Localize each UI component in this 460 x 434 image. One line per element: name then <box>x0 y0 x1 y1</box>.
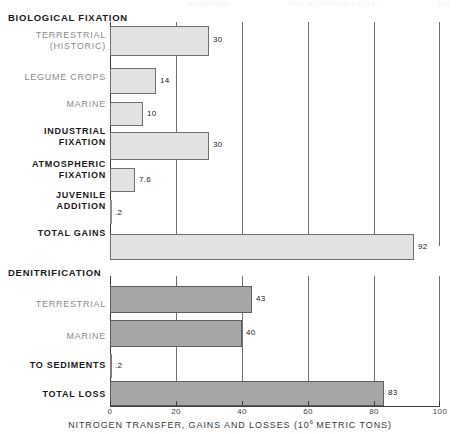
x-tick-label-40: 40 <box>237 407 247 416</box>
bar-value-legume-crops: 14 <box>160 76 170 85</box>
plot-area-biological-fixation: 30 14 10 30 7.6 .2 92 <box>110 22 440 246</box>
x-tick-label-0: 0 <box>108 407 113 416</box>
bar-value-marine-denitrification: 40 <box>246 328 256 337</box>
nitrogen-transfer-bar-chart: NITROGEN THE NITROGEN CYCLE 139 BIOLOGIC… <box>0 0 460 434</box>
x-axis-title-main: NITROGEN TRANSFER, GAINS AND LOSSES (10 <box>68 420 309 430</box>
x-tick-40 <box>242 401 243 406</box>
x-tick-0 <box>110 401 111 406</box>
running-head-left: NITROGEN <box>188 0 230 7</box>
running-head-page-number: 139 <box>437 0 450 7</box>
bar-total-gains <box>110 234 414 260</box>
bar-total-loss <box>110 381 384 406</box>
x-tick-label-100: 100 <box>433 407 448 416</box>
bar-terrestrial-historic <box>110 26 209 56</box>
running-head-center: THE NITROGEN CYCLE <box>289 0 378 7</box>
category-label-total-loss: TOTAL LOSS <box>42 389 106 400</box>
bar-legume-crops <box>110 68 156 94</box>
x-tick-label-60: 60 <box>303 407 313 416</box>
category-label-total-gains: TOTAL GAINS <box>38 228 106 239</box>
bar-to-sediments <box>110 354 112 378</box>
x-axis-title: NITROGEN TRANSFER, GAINS AND LOSSES (106… <box>0 419 460 430</box>
category-label-legume-crops: LEGUME CROPS <box>24 72 106 83</box>
bar-value-terrestrial-historic: 30 <box>213 35 223 44</box>
category-label-terrestrial-historic: TERRESTRIAL (HISTORIC) <box>36 30 106 51</box>
bar-terrestrial-denitrification <box>110 286 252 313</box>
bar-value-marine-fixation: 10 <box>147 109 157 118</box>
bar-industrial-fixation <box>110 132 209 160</box>
category-label-industrial-fixation: INDUSTRIAL FIXATION <box>44 126 106 147</box>
bar-value-juvenile-addition: .2 <box>115 208 122 217</box>
category-label-atmospheric-fixation: ATMOSPHERIC FIXATION <box>32 159 106 180</box>
bar-value-terrestrial-denitrification: 43 <box>256 294 266 303</box>
bar-juvenile-addition <box>110 200 112 224</box>
gridline-80-top <box>374 22 375 246</box>
bar-marine-denitrification <box>110 320 242 347</box>
bar-value-total-loss: 83 <box>388 388 398 397</box>
category-label-to-sediments: TO SEDIMENTS <box>30 360 106 371</box>
x-tick-label-20: 20 <box>171 407 181 416</box>
gridline-40-top <box>242 22 243 246</box>
gridline-100-top <box>439 22 440 246</box>
gridline-100-bottom <box>439 276 440 406</box>
bar-atmospheric-fixation <box>110 168 135 192</box>
bar-value-industrial-fixation: 30 <box>213 140 223 149</box>
page-running-head-ghost: NITROGEN THE NITROGEN CYCLE 139 <box>188 0 450 8</box>
bar-marine-fixation <box>110 102 143 126</box>
bar-value-atmospheric-fixation: 7.6 <box>139 175 151 184</box>
bar-value-total-gains: 92 <box>418 242 428 251</box>
bar-value-to-sediments: .2 <box>115 361 122 370</box>
x-tick-80 <box>374 401 375 406</box>
section-title-denitrification: DENITRIFICATION <box>8 267 101 278</box>
category-label-juvenile-addition: JUVENILE ADDITION <box>56 190 106 211</box>
x-axis-title-tail: METRIC TONS) <box>313 420 392 430</box>
x-tick-60 <box>308 401 309 406</box>
category-label-marine-fixation: MARINE <box>66 99 106 110</box>
gridline-60-top <box>308 22 309 246</box>
category-label-marine-denitrification: MARINE <box>66 331 106 342</box>
x-axis <box>110 406 440 407</box>
plot-area-denitrification: 43 40 .2 83 <box>110 276 440 406</box>
x-tick-label-80: 80 <box>369 407 379 416</box>
category-label-terrestrial-denitrification: TERRESTRIAL <box>36 299 106 310</box>
x-tick-100 <box>439 401 440 406</box>
x-tick-20 <box>176 401 177 406</box>
